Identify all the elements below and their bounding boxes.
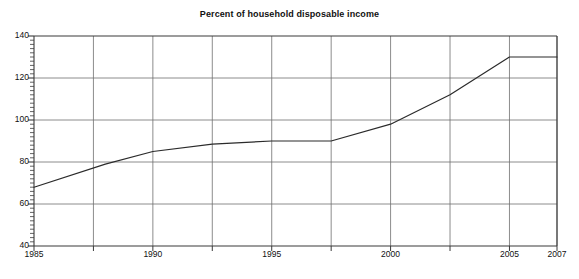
- chart-container: Percent of household disposable income 4…: [0, 0, 579, 279]
- x-axis-tick-label: 2005: [487, 250, 531, 259]
- x-axis-tick-label: 2007: [535, 250, 579, 259]
- x-axis-tick-label: 1995: [250, 250, 294, 259]
- x-axis-tick-label: 2000: [369, 250, 413, 259]
- x-axis-tick-label: 1990: [131, 250, 175, 259]
- x-axis-tick-labels: 198519901995200020052007: [0, 0, 579, 279]
- x-axis-tick-label: 1985: [12, 250, 56, 259]
